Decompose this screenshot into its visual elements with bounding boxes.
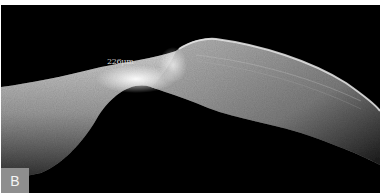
tissue-layer [1, 5, 380, 193]
oct-scan-image: 226μm [1, 5, 380, 193]
panel-label-badge: B [1, 168, 29, 193]
panel-label: B [10, 173, 19, 189]
measurement-label: 226μm [107, 58, 134, 66]
